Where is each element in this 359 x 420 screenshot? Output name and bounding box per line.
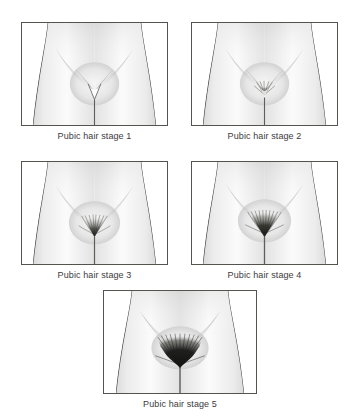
panel-caption-stage-2: Pubic hair stage 2 bbox=[191, 130, 338, 142]
panel-frame-stage-4 bbox=[191, 161, 338, 265]
panel-frame-stage-5 bbox=[103, 290, 257, 394]
panel-group-stage-2: Pubic hair stage 2 bbox=[191, 22, 338, 142]
panel-caption-stage-5: Pubic hair stage 5 bbox=[103, 398, 257, 410]
panel-frame-stage-2 bbox=[191, 22, 338, 126]
illustration-stage-2 bbox=[192, 23, 337, 125]
panel-group-stage-4: Pubic hair stage 4 bbox=[191, 161, 338, 281]
illustration-stage-4 bbox=[192, 162, 337, 264]
panel-frame-stage-1 bbox=[21, 22, 168, 126]
panel-group-stage-5: Pubic hair stage 5 bbox=[103, 290, 257, 410]
panel-group-stage-1: Pubic hair stage 1 bbox=[21, 22, 168, 142]
illustration-stage-5 bbox=[104, 291, 256, 393]
tanner-stage-figure: Pubic hair stage 1 bbox=[0, 0, 359, 420]
panel-caption-stage-3: Pubic hair stage 3 bbox=[21, 269, 168, 281]
illustration-stage-1 bbox=[22, 23, 167, 125]
panel-caption-stage-1: Pubic hair stage 1 bbox=[21, 130, 168, 142]
panel-group-stage-3: Pubic hair stage 3 bbox=[21, 161, 168, 281]
panel-frame-stage-3 bbox=[21, 161, 168, 265]
illustration-stage-3 bbox=[22, 162, 167, 264]
panel-caption-stage-4: Pubic hair stage 4 bbox=[191, 269, 338, 281]
